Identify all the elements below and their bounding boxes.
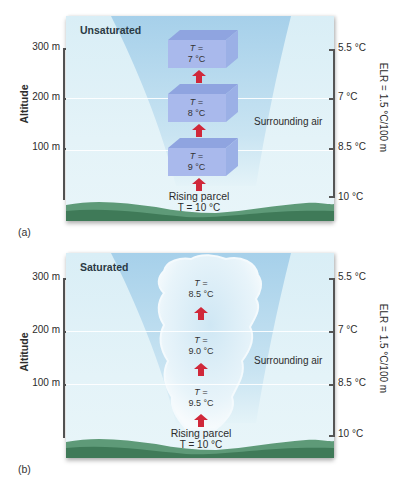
temperature-tick [329, 435, 335, 437]
temperature-tick-label: 5.5 °C [338, 42, 366, 53]
panel-title: Saturated [80, 261, 128, 273]
temperature-tick [329, 196, 335, 198]
rising-parcel-temp: T = 10 °C [141, 439, 261, 451]
parcel-temp-label: T =9.5 °C [176, 387, 226, 409]
air-parcel-cube: T =7 °C [168, 30, 238, 68]
parcel-temp-label: T =8 °C [168, 97, 225, 119]
temperature-axis-line [333, 278, 335, 436]
rising-parcel-label: Rising parcel T = 10 °C [139, 190, 259, 214]
temperature-tick [329, 278, 335, 280]
temperature-tick [329, 148, 335, 150]
up-arrow-icon [192, 70, 206, 83]
elr-axis-title: ELR = 1.5 °C/100 m [378, 289, 389, 409]
surrounding-air-label: Surrounding air [254, 355, 322, 366]
temperature-tick-label: 5.5 °C [338, 271, 366, 282]
elr-axis-title: ELR = 1.5 °C/100 m [378, 48, 389, 168]
altitude-tick-label: 300 m [20, 41, 60, 52]
panel-label-b: (b) [18, 463, 31, 475]
altitude-axis-line [63, 48, 65, 200]
temperature-tick-label: 7 °C [338, 91, 358, 102]
up-arrow-icon [194, 414, 208, 427]
diagram-area-a: Unsaturated T =7 °C T =8 °C [66, 16, 334, 221]
up-arrow-icon [194, 363, 208, 376]
air-parcel-cube: T =8 °C [168, 84, 238, 122]
surrounding-air-label: Surrounding air [254, 116, 322, 127]
gridline-100m [66, 384, 334, 385]
temperature-tick-label: 8.5 °C [338, 141, 366, 152]
temperature-tick [329, 49, 335, 51]
diagram-area-b: Saturated T =8.5 °C T =9.0 °C T =9.5 °C … [66, 253, 334, 458]
rising-parcel-temp: T = 10 °C [139, 202, 259, 214]
altitude-axis-line [63, 278, 65, 438]
altitude-tick-label: 100 m [20, 377, 60, 388]
temperature-tick-label: 10 °C [338, 191, 363, 202]
temperature-tick-label: 8.5 °C [338, 377, 366, 388]
altitude-tick-label: 100 m [20, 141, 60, 152]
temperature-tick [329, 98, 335, 100]
altitude-tick-label: 300 m [20, 271, 60, 282]
parcel-temp-label: T =8.5 °C [176, 278, 226, 300]
up-arrow-icon [194, 307, 208, 320]
panel-title: Unsaturated [80, 24, 141, 36]
altitude-tick-label: 200 m [20, 91, 60, 102]
up-arrow-icon [192, 124, 206, 137]
parcel-temp-label: T =7 °C [168, 43, 225, 65]
temperature-tick-label: 10 °C [338, 428, 363, 439]
altitude-axis-title: Altitude [18, 74, 30, 134]
parcel-temp-label: T =9.0 °C [176, 335, 226, 357]
air-parcel-cube: T =9 °C [168, 138, 238, 176]
temperature-tick-label: 7 °C [338, 324, 358, 335]
parcel-temp-label: T =9 °C [168, 151, 225, 173]
temperature-tick [329, 384, 335, 386]
gridline-200m [66, 331, 334, 332]
temperature-tick [329, 331, 335, 333]
temperature-axis-line [333, 49, 335, 197]
rising-parcel-label: Rising parcel T = 10 °C [141, 427, 261, 451]
altitude-tick-label: 200 m [20, 324, 60, 335]
panel-label-a: (a) [18, 226, 31, 238]
